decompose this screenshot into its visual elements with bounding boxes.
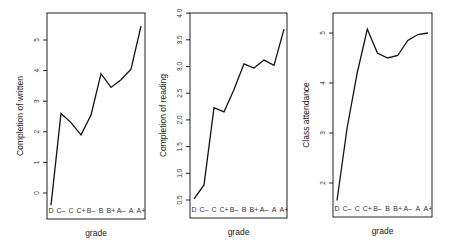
data-line xyxy=(51,26,141,205)
y-axis-label: Completion of written xyxy=(15,76,25,156)
x-category-label: A+ xyxy=(424,205,433,212)
x-category-label: C xyxy=(211,206,216,213)
y-tick-label: 1.5 xyxy=(176,142,183,151)
chart-panels: 012345DC–CC+B–BB+A–AA+gradeCompletion of… xyxy=(0,0,451,246)
x-axis-label: grade xyxy=(228,227,250,237)
y-tick-label: 1 xyxy=(33,160,40,164)
y-tick-label: 4.0 xyxy=(176,8,183,17)
y-tick-label: 2 xyxy=(319,181,326,185)
x-category-label: B– xyxy=(230,206,239,213)
y-tick-label: 4 xyxy=(33,68,40,72)
x-category-label: C+ xyxy=(219,206,228,213)
x-category-label: C– xyxy=(57,207,66,214)
x-category-label: A+ xyxy=(280,206,289,213)
x-category-label: A xyxy=(416,205,421,212)
chart-panel-2: 0.51.01.52.02.53.03.54.0DC–CC+B–BB+A–AA+… xyxy=(158,8,288,237)
x-category-label: C xyxy=(68,207,73,214)
y-tick-label: 0.5 xyxy=(176,195,183,204)
y-tick-label: 3 xyxy=(33,99,40,103)
x-category-label: C+ xyxy=(363,205,372,212)
x-axis-label: grade xyxy=(85,228,107,238)
y-tick-label: 1.0 xyxy=(176,168,183,177)
x-category-label: C– xyxy=(200,206,209,213)
x-category-label: B xyxy=(385,205,390,212)
data-line xyxy=(337,29,428,201)
x-category-label: A– xyxy=(403,205,412,212)
x-category-label: A xyxy=(272,206,277,213)
data-line xyxy=(194,29,284,199)
x-category-label: B+ xyxy=(250,206,259,213)
y-tick-label: 2 xyxy=(33,130,40,134)
y-tick-label: 2.0 xyxy=(176,115,183,124)
x-category-label: B xyxy=(242,206,247,213)
y-tick-label: 4 xyxy=(319,81,326,85)
y-tick-label: 2.5 xyxy=(176,88,183,97)
chart-panel-3: 2345DC–CC+B–BB+A–AA+gradeClass attendanc… xyxy=(301,13,432,236)
x-category-label: B xyxy=(99,207,104,214)
y-tick-label: 5 xyxy=(319,31,326,35)
y-tick-label: 3 xyxy=(319,131,326,135)
y-tick-label: 3.0 xyxy=(176,62,183,71)
x-category-label: C+ xyxy=(76,207,85,214)
x-category-label: B– xyxy=(373,205,382,212)
x-category-label: D xyxy=(48,207,53,214)
y-axis-label: Class attendance xyxy=(301,82,311,148)
x-category-label: B+ xyxy=(107,207,116,214)
x-category-label: A– xyxy=(260,206,269,213)
y-axis-label: Completion of reading xyxy=(158,74,168,157)
y-tick-label: 3.5 xyxy=(176,35,183,44)
x-category-label: B+ xyxy=(393,205,402,212)
x-category-label: B– xyxy=(87,207,96,214)
x-category-label: C xyxy=(355,205,360,212)
y-tick-label: 0 xyxy=(33,191,40,195)
x-category-label: A xyxy=(129,207,134,214)
x-category-label: D xyxy=(334,205,339,212)
y-tick-label: 5 xyxy=(33,38,40,42)
x-axis-label: grade xyxy=(372,226,394,236)
x-category-label: C– xyxy=(343,205,352,212)
x-category-label: A+ xyxy=(137,207,146,214)
plot-frame xyxy=(333,13,432,217)
plot-frame xyxy=(190,13,287,218)
x-category-label: A– xyxy=(117,207,126,214)
chart-panel-1: 012345DC–CC+B–BB+A–AA+gradeCompletion of… xyxy=(15,13,145,238)
plot-frame xyxy=(47,13,145,219)
x-category-label: D xyxy=(191,206,196,213)
